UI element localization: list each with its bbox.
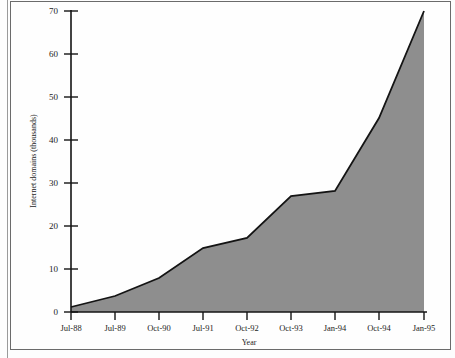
x-tick-label-oct-94: Oct-94 [367,323,391,333]
y-tick-label-10: 10 [49,264,59,274]
y-axis-title: Internet domains (thousands) [29,114,38,208]
x-tick-label-oct-93: Oct-93 [279,323,303,333]
figure-page: 70 60 50 40 30 20 10 0 Jul-88 Jul-8 [0,0,455,358]
x-axis-ticks [71,312,424,320]
y-tick-label-50: 50 [49,92,59,102]
x-tick-label-jan-94: Jan-94 [324,323,347,333]
x-tick-label-jul-89: Jul-89 [104,323,125,333]
chart-plot-svg: 70 60 50 40 30 20 10 0 Jul-88 Jul-8 [0,0,455,358]
x-tick-label-oct-90: Oct-90 [147,323,171,333]
x-tick-label-oct-92: Oct-92 [235,323,259,333]
y-tick-label-40: 40 [49,135,59,145]
y-tick-label-30: 30 [49,178,59,188]
x-tick-label-jul-88: Jul-88 [60,323,81,333]
x-tick-label-jan-95: Jan-95 [413,323,436,333]
y-tick-label-60: 60 [49,49,59,59]
y-tick-label-70: 70 [49,6,59,16]
x-tick-label-jul-91: Jul-91 [192,323,213,333]
x-axis-title: Year [242,338,257,347]
y-tick-label-20: 20 [49,221,59,231]
series-area-internet-domains [71,11,424,312]
area-chart: 70 60 50 40 30 20 10 0 Jul-88 Jul-8 [0,0,455,358]
y-tick-label-0: 0 [54,307,59,317]
